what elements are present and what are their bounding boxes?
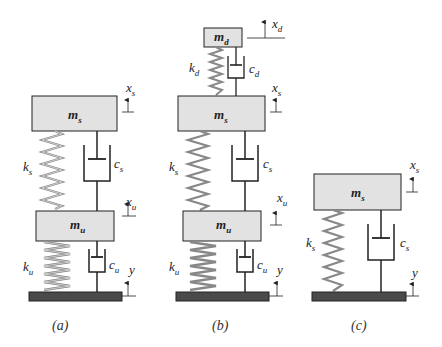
label-b-ku: ku xyxy=(169,260,179,277)
diagram-canvas xyxy=(0,0,442,347)
label-a-y: y xyxy=(129,263,135,276)
label-b-ks: ks xyxy=(169,160,178,177)
label-b-xd: xd xyxy=(272,17,282,34)
ground-a xyxy=(29,292,122,301)
caption-c: (c) xyxy=(351,318,367,334)
label-b-cu: cu xyxy=(257,258,267,275)
label-b-cd: cd xyxy=(249,62,259,79)
label-b-kd: kd xyxy=(189,61,199,78)
spring-ks xyxy=(188,131,208,210)
label-a-cs: cs xyxy=(114,157,123,174)
caption-a: (a) xyxy=(52,318,68,334)
label-a-ks: ks xyxy=(23,160,32,177)
spring-ku xyxy=(190,242,216,290)
label-c-cs: cs xyxy=(400,236,409,253)
label-a-ms: ms xyxy=(68,108,82,125)
label-c-xs: xs xyxy=(410,158,419,175)
caption-b: (b) xyxy=(212,318,228,334)
label-a-xs: xs xyxy=(126,81,135,98)
spring-ku xyxy=(40,241,72,293)
quarter-car-models-figure: ms mu ks ku cs cu xs xu y (a) md kd cd x… xyxy=(0,0,442,347)
label-b-xs: xs xyxy=(272,81,281,98)
ground-b xyxy=(176,292,269,301)
label-b-xu: xu xyxy=(277,191,287,208)
panel-a xyxy=(29,96,136,301)
spring-ks xyxy=(324,210,342,291)
label-a-ku: ku xyxy=(23,260,33,277)
label-b-md: md xyxy=(214,30,229,47)
ground-c xyxy=(312,292,406,301)
label-b-cs: cs xyxy=(263,157,272,174)
label-c-y: y xyxy=(412,266,418,279)
label-b-ms: ms xyxy=(214,108,228,125)
label-c-ks: ks xyxy=(306,236,315,253)
label-a-mu: mu xyxy=(70,218,85,235)
spring-kd xyxy=(210,47,222,95)
label-a-xu: xu xyxy=(126,195,136,212)
label-b-mu: mu xyxy=(216,218,231,235)
label-a-cu: cu xyxy=(109,258,119,275)
label-b-y: y xyxy=(277,263,283,276)
label-c-ms: ms xyxy=(351,186,365,203)
